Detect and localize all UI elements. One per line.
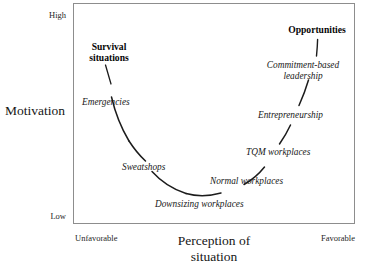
x-axis-tick-unfavorable: Unfavorable [75, 234, 117, 243]
x-axis-title-line1: Perception of [144, 234, 284, 249]
x-axis-title-line2: situation [144, 250, 284, 265]
annotation-commitment-based-leadership-line2: leadership [253, 71, 353, 81]
x-axis-tick-favorable: Favorable [295, 234, 355, 243]
annotation-downsizing-workplaces: Downsizing workplaces [155, 199, 244, 209]
annotation-survival-situations-line1: Survival [78, 41, 140, 52]
annotation-sweatshops: Sweatshops [122, 162, 165, 172]
annotation-commitment-based-leadership-line1: Commitment-based [253, 60, 353, 70]
annotation-opportunities: Opportunities [272, 24, 362, 35]
figure-root: High Motivation Low Unfavorable Favorabl… [0, 0, 367, 268]
annotation-entrepreneurship: Entrepreneurship [258, 110, 323, 120]
annotation-survival-situations-line2: situations [78, 52, 140, 63]
y-axis-tick-high: High [18, 11, 66, 20]
y-axis-title: Motivation [5, 104, 71, 119]
annotation-emergencies: Emergencies [82, 97, 130, 107]
annotation-tqm-workplaces: TQM workplaces [246, 147, 310, 157]
annotation-normal-workplaces: Normal workplaces [210, 176, 283, 186]
y-axis-tick-low: Low [18, 212, 66, 221]
